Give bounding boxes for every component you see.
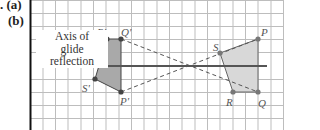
label-r: R xyxy=(225,96,233,108)
label-s-prime: S' xyxy=(82,82,91,94)
label-q: Q xyxy=(258,97,266,109)
label-p-prime: P' xyxy=(119,95,130,107)
label-s: S xyxy=(213,41,219,53)
axis-label-line1: Axis of xyxy=(36,30,108,43)
axis-label: Axis of glide reflection xyxy=(36,30,108,68)
axis-label-line3: reflection xyxy=(36,55,108,68)
label-q-prime: Q' xyxy=(121,26,132,38)
axis-label-line2: glide xyxy=(36,43,108,56)
label-p: P xyxy=(260,26,268,38)
